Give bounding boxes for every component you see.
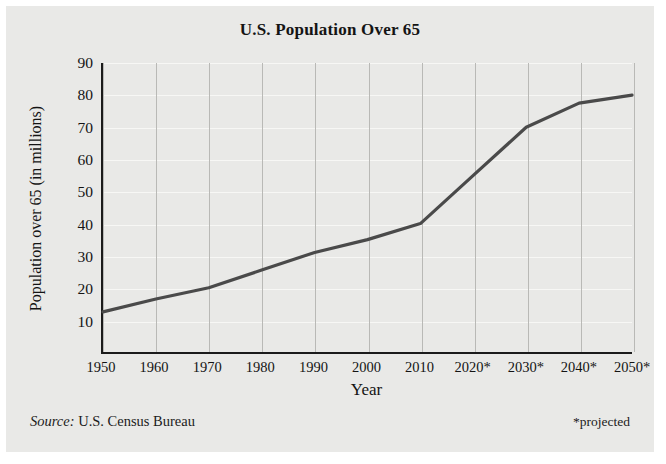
y-axis-tick-label: 70 <box>78 119 94 137</box>
y-axis-tick-label: 80 <box>78 86 94 104</box>
x-axis-tick-label: 1980 <box>246 359 275 376</box>
y-axis-tick-label: 30 <box>78 248 94 266</box>
gridline-vertical <box>634 63 635 352</box>
x-axis-title: Year <box>101 380 632 400</box>
y-axis-tick-label: 40 <box>78 216 94 234</box>
y-axis-title: Population over 65 (in millions) <box>27 63 53 354</box>
x-axis-tick-label: 1970 <box>193 359 222 376</box>
x-axis-tick-label: 2010 <box>405 359 434 376</box>
plot-area <box>101 63 632 354</box>
x-axis-tick-label: 2000 <box>352 359 381 376</box>
projected-note: *projected <box>573 414 630 430</box>
y-axis-tick-label: 50 <box>78 183 94 201</box>
source-label: Source: <box>30 413 75 429</box>
chart-title: U.S. Population Over 65 <box>6 20 654 40</box>
x-axis-tick-label: 1990 <box>299 359 328 376</box>
figure-footer: Source: U.S. Census Bureau *projected <box>30 413 630 430</box>
figure-panel: U.S. Population Over 65 Population over … <box>6 6 654 452</box>
y-axis-tick-label: 60 <box>78 151 94 169</box>
source-note: Source: U.S. Census Bureau <box>30 413 195 430</box>
x-axis-tick-label: 2030* <box>508 359 544 376</box>
x-axis-tick-label: 1960 <box>140 359 169 376</box>
y-axis-tick-label: 90 <box>78 54 94 72</box>
x-axis-tick-label: 1950 <box>87 359 116 376</box>
plot-wrapper: 908070605040302010 195019601970198019902… <box>101 63 632 354</box>
x-axis-tick-label: 2050* <box>614 359 650 376</box>
source-value: U.S. Census Bureau <box>78 413 195 429</box>
x-axis-tick-label: 2040* <box>561 359 597 376</box>
y-axis-tick-label: 20 <box>78 280 94 298</box>
x-axis-tick-label: 2020* <box>455 359 491 376</box>
series-line-over-65 <box>103 63 632 352</box>
y-axis-tick-label: 10 <box>78 313 94 331</box>
